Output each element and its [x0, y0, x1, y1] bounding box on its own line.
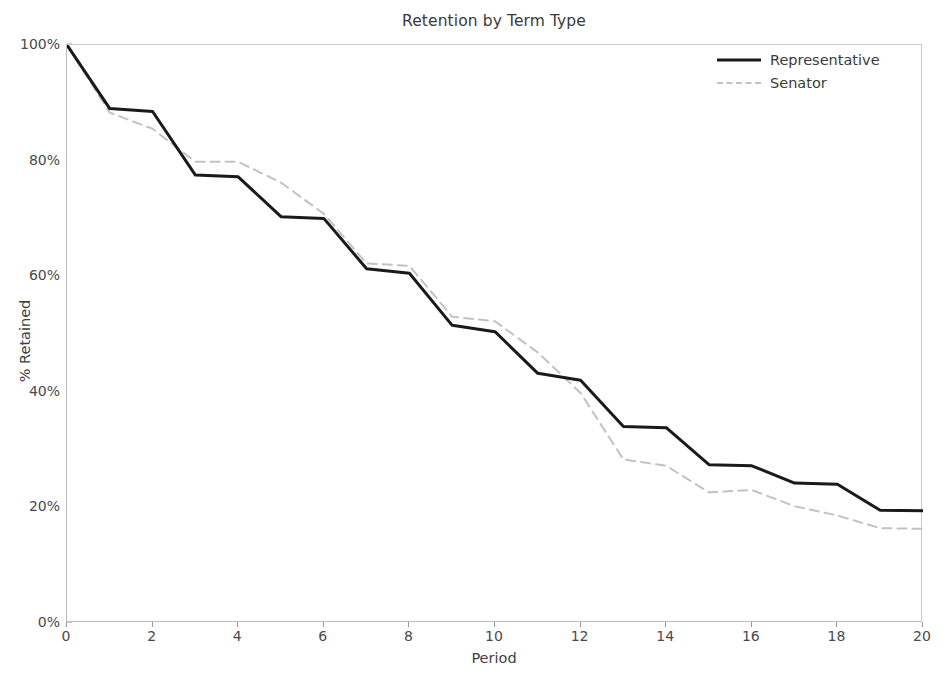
y-tick-label: 20%: [14, 498, 60, 514]
x-tick-mark: [665, 622, 666, 627]
x-tick-mark: [494, 622, 495, 627]
x-tick-label: 8: [388, 628, 428, 644]
x-tick-label: 6: [303, 628, 343, 644]
y-tick-label: 60%: [14, 267, 60, 283]
x-tick-mark: [922, 622, 923, 627]
x-tick-label: 10: [474, 628, 514, 644]
x-tick-mark: [237, 622, 238, 627]
x-tick-label: 12: [560, 628, 600, 644]
x-tick-mark: [408, 622, 409, 627]
x-axis-label: Period: [66, 650, 922, 666]
plot-lines: [67, 45, 923, 623]
y-tick-label: 80%: [14, 152, 60, 168]
x-tick-label: 2: [132, 628, 172, 644]
x-tick-mark: [580, 622, 581, 627]
chart-legend: Representative Senator: [717, 52, 880, 91]
x-tick-label: 20: [902, 628, 942, 644]
plot-area: [66, 44, 922, 622]
y-tick-label: 100%: [14, 36, 60, 52]
x-tick-mark: [751, 622, 752, 627]
legend-item-senator: Senator: [717, 75, 880, 91]
x-tick-mark: [836, 622, 837, 627]
x-tick-mark: [323, 622, 324, 627]
chart-figure: Retention by Term Type % Retained 0%20%4…: [0, 0, 952, 676]
series-line-representative: [67, 45, 923, 511]
x-tick-label: 4: [217, 628, 257, 644]
legend-label-senator: Senator: [770, 75, 827, 91]
series-line-senator: [67, 45, 923, 529]
y-tick-label: 40%: [14, 383, 60, 399]
x-tick-label: 14: [645, 628, 685, 644]
x-tick-mark: [152, 622, 153, 627]
legend-line-dashed-icon: [717, 77, 761, 89]
x-tick-label: 0: [46, 628, 86, 644]
chart-title: Retention by Term Type: [66, 12, 922, 30]
legend-line-solid-icon: [717, 54, 761, 66]
x-tick-mark: [66, 622, 67, 627]
x-tick-label: 18: [816, 628, 856, 644]
x-tick-label: 16: [731, 628, 771, 644]
legend-item-representative: Representative: [717, 52, 880, 68]
legend-label-representative: Representative: [770, 52, 880, 68]
y-axis-ticks: 0%20%40%60%80%100%: [6, 0, 60, 676]
